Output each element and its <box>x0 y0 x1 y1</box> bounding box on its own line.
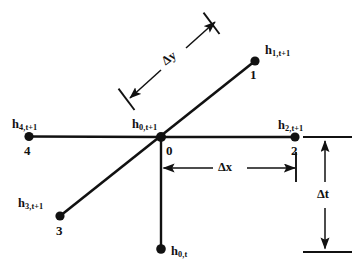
figure-canvas <box>0 0 360 274</box>
delta-y-tick-lower <box>119 89 135 110</box>
node-1-number: 1 <box>250 68 257 81</box>
node-dot-0-old-time <box>156 244 166 254</box>
node-dot-4 <box>24 132 33 141</box>
node-2-head-label: h2,t+1 <box>278 119 303 132</box>
node-3-number: 3 <box>56 224 63 237</box>
node-0-head-label: h0,t+1 <box>132 118 157 131</box>
node-1-head-label: h1,t+1 <box>265 44 290 57</box>
node-0-old-time-head-label: h0,t <box>171 245 187 258</box>
node-dot-2 <box>290 132 299 141</box>
delta-x-label: Δx <box>218 161 232 174</box>
node-dot-0 <box>156 132 166 142</box>
node-0-number: 0 <box>166 144 173 157</box>
node-4-head-label: h4,t+1 <box>12 118 37 131</box>
node-4-number: 4 <box>24 144 31 157</box>
arm-4-to-0 <box>29 137 161 138</box>
delta-y-arrow-upper <box>186 22 215 48</box>
node-2-number: 2 <box>291 144 298 157</box>
delta-y-arrow-lower <box>130 70 161 98</box>
stencil-arms <box>29 61 295 249</box>
node-3-head-label: h3,t+1 <box>18 197 43 210</box>
node-dot-3 <box>55 211 64 220</box>
node-dot-1 <box>250 56 259 65</box>
stencil-figure: h1,t+1 1 h2,t+1 2 h3,t+1 3 h4,t+1 4 h0,t… <box>0 0 360 274</box>
delta-t-label: Δt <box>317 188 329 201</box>
